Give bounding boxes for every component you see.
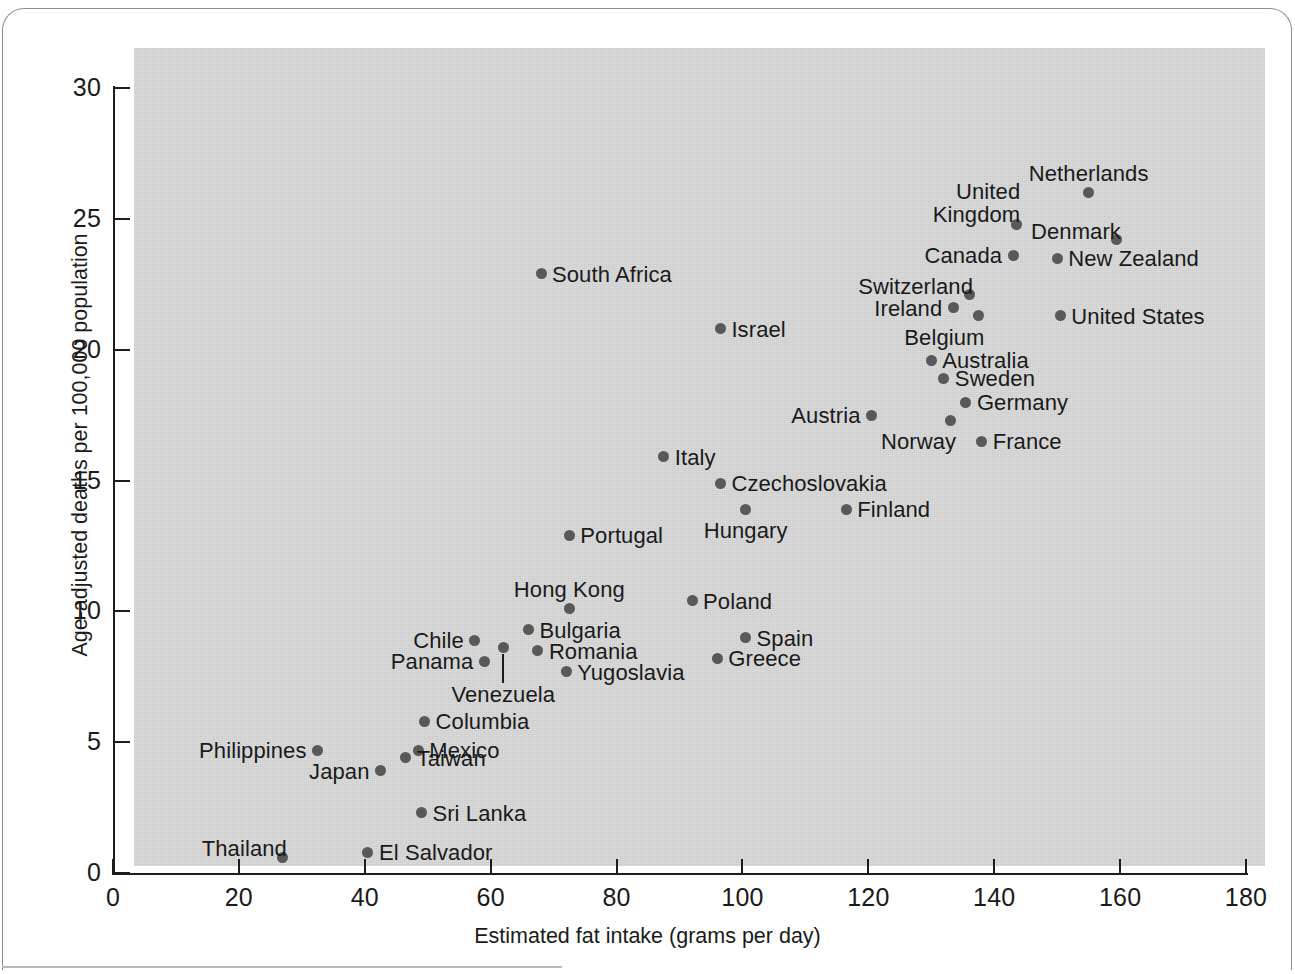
y-tick <box>115 218 130 220</box>
data-point <box>536 268 547 279</box>
x-tick <box>867 859 869 874</box>
x-tick <box>238 859 240 874</box>
data-point <box>1055 310 1066 321</box>
scatter-plot-figure: 051015202530 020406080100120140160180 Ag… <box>0 0 1295 974</box>
point-label: Netherlands <box>1029 161 1149 184</box>
data-point <box>960 397 971 408</box>
point-label: Germany <box>977 391 1068 414</box>
data-point <box>561 666 572 677</box>
point-label: Hungary <box>704 519 788 542</box>
x-tick-label: 60 <box>456 884 526 910</box>
point-label: Denmark <box>1031 219 1121 242</box>
point-label: France <box>993 430 1062 453</box>
x-axis-title: Estimated fat intake (grams per day) <box>0 925 1295 947</box>
point-label: Columbia <box>436 710 530 733</box>
point-label: Hong Kong <box>514 577 625 600</box>
point-label: Venezuela <box>451 682 555 705</box>
point-label: Ireland <box>874 296 942 319</box>
x-tick-label: 180 <box>1211 884 1281 910</box>
point-label: Sweden <box>955 367 1035 390</box>
x-tick-label: 160 <box>1085 884 1155 910</box>
point-label: Taiwan <box>417 746 486 769</box>
y-tick <box>115 610 130 612</box>
point-label: Canada <box>924 244 1002 267</box>
x-tick-label: 140 <box>959 884 1029 910</box>
x-axis-line <box>112 873 1248 875</box>
data-point <box>523 624 534 635</box>
data-point <box>740 504 751 515</box>
data-point <box>926 355 937 366</box>
data-point <box>740 632 751 643</box>
x-tick <box>741 859 743 874</box>
x-tick <box>112 859 114 874</box>
x-tick-label: 80 <box>582 884 652 910</box>
point-label: New Zealand <box>1068 247 1199 270</box>
x-tick <box>1245 859 1247 874</box>
point-label: Sri Lanka <box>432 801 526 824</box>
y-tick <box>115 87 130 89</box>
data-point <box>841 504 852 515</box>
point-label: Finland <box>857 498 930 521</box>
data-point <box>715 478 726 489</box>
y-tick-label: 0 <box>55 860 101 885</box>
point-label: Israel <box>731 317 785 340</box>
data-point <box>564 603 575 614</box>
x-tick <box>364 859 366 874</box>
point-label: Yugoslavia <box>577 660 684 683</box>
data-point <box>362 847 373 858</box>
y-tick <box>115 480 130 482</box>
x-tick-label: 20 <box>204 884 274 910</box>
data-point <box>469 635 480 646</box>
point-label: Portugal <box>580 524 663 547</box>
point-label: Austria <box>791 404 860 427</box>
data-point <box>479 656 490 667</box>
x-tick <box>993 859 995 874</box>
label-leader-line <box>502 654 504 683</box>
data-point <box>945 415 956 426</box>
x-tick <box>616 859 618 874</box>
point-label: South Africa <box>552 262 672 285</box>
point-label: Czechoslovakia <box>731 472 886 495</box>
point-label: Norway <box>881 430 956 453</box>
y-tick <box>115 872 130 874</box>
point-label: United States <box>1071 304 1204 327</box>
data-point <box>976 436 987 447</box>
data-point <box>687 595 698 606</box>
point-label: Belgium <box>904 325 984 348</box>
x-tick-label: 40 <box>330 884 400 910</box>
point-label: Japan <box>309 759 369 782</box>
data-point <box>564 530 575 541</box>
y-tick <box>115 741 130 743</box>
x-tick-label: 0 <box>78 884 148 910</box>
x-tick <box>1119 859 1121 874</box>
point-label: Philippines <box>199 739 307 762</box>
y-axis-title: Age-adjusted deaths per 100,000 populati… <box>69 65 91 825</box>
y-tick <box>115 349 130 351</box>
point-label: Poland <box>703 589 772 612</box>
data-point <box>419 716 430 727</box>
data-point <box>866 410 877 421</box>
point-label: United Kingdom <box>933 180 1021 226</box>
data-point <box>312 745 323 756</box>
data-point <box>712 653 723 664</box>
point-label: Switzerland <box>858 274 973 297</box>
x-tick-label: 120 <box>833 884 903 910</box>
x-tick-label: 100 <box>707 884 777 910</box>
point-label: Thailand <box>202 837 287 860</box>
point-label: Italy <box>675 445 716 468</box>
data-point <box>1052 253 1063 264</box>
point-label: El Salvador <box>379 841 493 864</box>
data-point <box>1008 250 1019 261</box>
point-label: Greece <box>728 647 801 670</box>
point-label: Panama <box>391 650 474 673</box>
